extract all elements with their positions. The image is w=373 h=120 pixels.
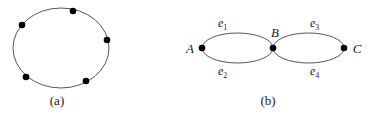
- vertex-label-a: A: [185, 41, 194, 56]
- edge-pair-ab: [202, 33, 273, 63]
- vertex: [104, 37, 111, 44]
- edge-label-e2: e2: [218, 64, 227, 80]
- vertex-label-c: C: [353, 41, 362, 56]
- vertex: [83, 78, 90, 85]
- edge-label-e4: e4: [310, 64, 319, 80]
- caption-a: (a): [50, 93, 64, 108]
- edge-label-e1: e1: [218, 16, 227, 32]
- caption-b: (b): [260, 93, 275, 108]
- diagram-a: (a): [13, 8, 110, 108]
- edge-label-e3: e3: [310, 16, 319, 32]
- vertex-b: [270, 45, 277, 52]
- vertex: [23, 74, 30, 81]
- edge-label-sub: 1: [223, 23, 227, 32]
- vertex: [70, 8, 77, 15]
- edge-label-sub: 2: [223, 71, 227, 80]
- vertex-a: [199, 45, 206, 52]
- vertex-label-b: B: [271, 25, 279, 40]
- edge-label-sub: 4: [315, 71, 319, 80]
- vertex: [19, 22, 26, 29]
- edge-pair-bc: [273, 33, 344, 63]
- figure: (a) A B C e1 e2 e3 e4 (b): [0, 0, 373, 120]
- edge-label-sub: 3: [315, 23, 319, 32]
- diagram-b: A B C e1 e2 e3 e4 (b): [185, 16, 362, 108]
- vertex-c: [341, 45, 348, 52]
